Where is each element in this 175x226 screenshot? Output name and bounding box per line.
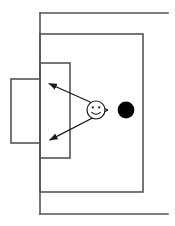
pitch-diagram-canvas [0,0,175,226]
goal-area-box [40,63,70,158]
player-head-icon [87,101,105,119]
soccer-shooting-angle-diagram: Shooting angle to goal Plan view of a go… [0,0,175,226]
ball-icon [118,102,135,119]
player-eye-right-icon [98,106,100,108]
player-marker [87,101,105,119]
player-eye-left-icon [92,106,94,108]
goal-net-box [11,79,40,143]
